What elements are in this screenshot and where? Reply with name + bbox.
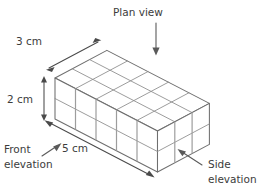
height-arrow-head-top: [41, 76, 47, 83]
cuboid-figure: 3 cm 2 cm 5 cm Plan view Front elevation: [0, 0, 269, 192]
width-dimension-label: 5 cm: [62, 142, 88, 154]
plan-view-arrow-head: [152, 48, 159, 56]
dimension-height: 2 cm: [7, 76, 47, 121]
height-arrow-head-bottom: [41, 115, 47, 122]
depth-dimension-label: 3 cm: [16, 35, 42, 47]
front-elevation-label-line2: elevation: [4, 158, 53, 170]
figure-canvas: 3 cm 2 cm 5 cm Plan view Front elevation: [0, 0, 269, 192]
side-elevation-label-line1: Side: [208, 158, 231, 170]
plan-view-label: Plan view: [113, 6, 163, 18]
width-arrow-head-start: [45, 120, 54, 127]
front-elevation-label-line1: Front: [4, 143, 31, 155]
front-elevation-arrow-head: [53, 143, 61, 151]
height-dimension-label: 2 cm: [7, 93, 33, 105]
width-arrow-head-end: [146, 171, 155, 178]
callout-front-elevation: Front elevation: [4, 143, 62, 170]
callout-plan-view: Plan view: [113, 6, 163, 56]
side-elevation-label-line2: elevation: [208, 173, 257, 185]
